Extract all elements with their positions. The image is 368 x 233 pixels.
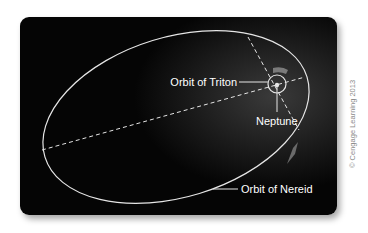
orbit-diagram: Orbit of Triton Neptune Orbit of Nereid	[0, 0, 368, 233]
triton-orbit-label: Orbit of Triton	[170, 76, 237, 88]
triton-motion-arrow	[273, 67, 288, 74]
neptune-label: Neptune	[256, 115, 298, 127]
nereid-orbit-label: Orbit of Nereid	[241, 183, 313, 195]
neptune-dot	[275, 83, 279, 87]
copyright-credit: © Cengage Learning 2013	[348, 80, 357, 168]
nereid-motion-arrow	[287, 142, 298, 164]
